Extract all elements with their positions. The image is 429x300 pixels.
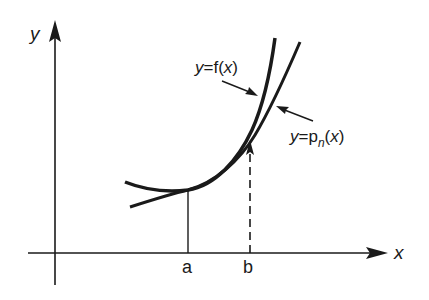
y-axis-label: y xyxy=(30,24,40,43)
x-axis xyxy=(28,247,388,259)
point-a-label: a xyxy=(182,258,192,276)
point-b-label: b xyxy=(243,258,253,276)
pn-pointer-arrow-icon xyxy=(276,106,289,114)
pn-pointer xyxy=(276,106,313,121)
approximation-diagram xyxy=(0,0,429,300)
f-curve-label: y=f(x) xyxy=(195,59,238,76)
f-pointer xyxy=(222,81,258,96)
x-axis-label: x xyxy=(394,243,404,262)
y-axis xyxy=(49,20,61,285)
pn-curve-label: y=pn(x) xyxy=(290,128,344,145)
b-dashed-arrow xyxy=(246,140,254,253)
